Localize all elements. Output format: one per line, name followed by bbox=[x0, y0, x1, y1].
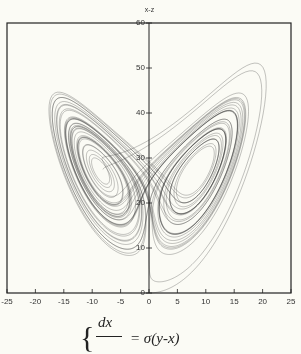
x-tick-label: -20 bbox=[25, 297, 45, 306]
y-tick-label: 0 bbox=[125, 288, 145, 297]
x-tick-label: 20 bbox=[253, 297, 273, 306]
x-tick-label: 5 bbox=[167, 297, 187, 306]
x-tick-label: 15 bbox=[224, 297, 244, 306]
equation-numerator: dx bbox=[98, 314, 112, 331]
x-tick-label: 25 bbox=[281, 297, 301, 306]
x-tick-label: -5 bbox=[111, 297, 131, 306]
y-tick-label: 50 bbox=[125, 63, 145, 72]
y-tick-label: 40 bbox=[125, 108, 145, 117]
x-tick-label: -25 bbox=[0, 297, 17, 306]
y-tick-label: 10 bbox=[125, 243, 145, 252]
x-tick-label: -15 bbox=[54, 297, 74, 306]
chart-title: x-z bbox=[0, 6, 299, 13]
fraction-bar bbox=[96, 336, 122, 337]
x-tick-label: 10 bbox=[196, 297, 216, 306]
y-tick-label: 30 bbox=[125, 153, 145, 162]
x-tick-label: 0 bbox=[139, 297, 159, 306]
y-tick-label: 60 bbox=[125, 18, 145, 27]
equation-brace: { bbox=[80, 320, 94, 354]
x-tick-label: -10 bbox=[82, 297, 102, 306]
y-tick-label: 20 bbox=[125, 198, 145, 207]
equation-rhs: = σ(y-x) bbox=[130, 330, 180, 347]
